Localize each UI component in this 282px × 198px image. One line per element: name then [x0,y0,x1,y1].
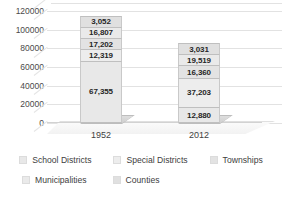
legend-label: Townships [223,155,263,165]
backwall-top [51,3,282,4]
legend-label: Special Districts [126,155,187,165]
segment-value: 19,519 [187,56,211,65]
bar-segment-counties[interactable]: 3,052 [80,16,122,27]
legend-swatch [19,156,27,164]
segment-value: 3,052 [91,17,111,26]
segment-value: 16,807 [89,28,113,37]
segment-value: 67,355 [89,87,113,96]
bar-segment-municipalities[interactable]: 19,519 [178,54,220,65]
gridline [47,11,282,12]
segment-value: 12,880 [187,111,211,120]
legend-swatch [113,176,121,184]
x-axis-label-1952: 1952 [91,130,111,140]
legend-swatch [210,156,218,164]
segment-value: 16,360 [187,68,211,77]
bar-segment-counties[interactable]: 3,031 [178,43,220,54]
bar-segment-special-districts[interactable]: 12,319 [80,49,122,60]
bar-segment-municipalities[interactable]: 16,807 [80,27,122,38]
x-axis: 1952 2012 [47,126,282,145]
segment-value: 12,319 [89,51,113,60]
bar-segment-school-districts[interactable]: 67,355 [80,61,122,123]
chart-legend: School Districts Special Districts Towns… [0,150,282,196]
legend-item-special-districts[interactable]: Special Districts [113,155,187,165]
bar-front-face: 67,355 12,319 17,202 16,807 3,052 [80,16,122,123]
legend-label: Municipalities [35,175,87,185]
bar-segment-townships[interactable]: 17,202 [80,38,122,49]
x-axis-label-2012: 2012 [189,130,209,140]
legend-item-townships[interactable]: Townships [210,155,263,165]
segment-value: 3,031 [189,45,209,54]
legend-item-counties[interactable]: Counties [113,175,160,185]
segment-value: 37,203 [187,88,211,97]
legend-label: Counties [126,175,160,185]
legend-swatch [22,176,30,184]
legend-label: School Districts [32,155,91,165]
plot-area: 0 20000 40000 60000 80000 100000 120000 [0,0,282,145]
legend-swatch [113,156,121,164]
chart-container: 0 20000 40000 60000 80000 100000 120000 [0,0,282,198]
bar-segment-school-districts[interactable]: 12,880 [178,107,220,123]
bar-segment-special-districts[interactable]: 37,203 [178,78,220,108]
legend-row: School Districts Special Districts Towns… [0,150,282,170]
legend-item-municipalities[interactable]: Municipalities [22,175,87,185]
segment-value: 17,202 [89,40,113,49]
legend-item-school-districts[interactable]: School Districts [19,155,91,165]
bar-segment-townships[interactable]: 16,360 [178,65,220,77]
y-axis: 0 20000 40000 60000 80000 100000 120000 [0,0,47,145]
legend-row: Municipalities Counties [0,170,282,190]
bar-front-face: 12,880 37,203 16,360 19,519 3,031 [178,43,220,123]
